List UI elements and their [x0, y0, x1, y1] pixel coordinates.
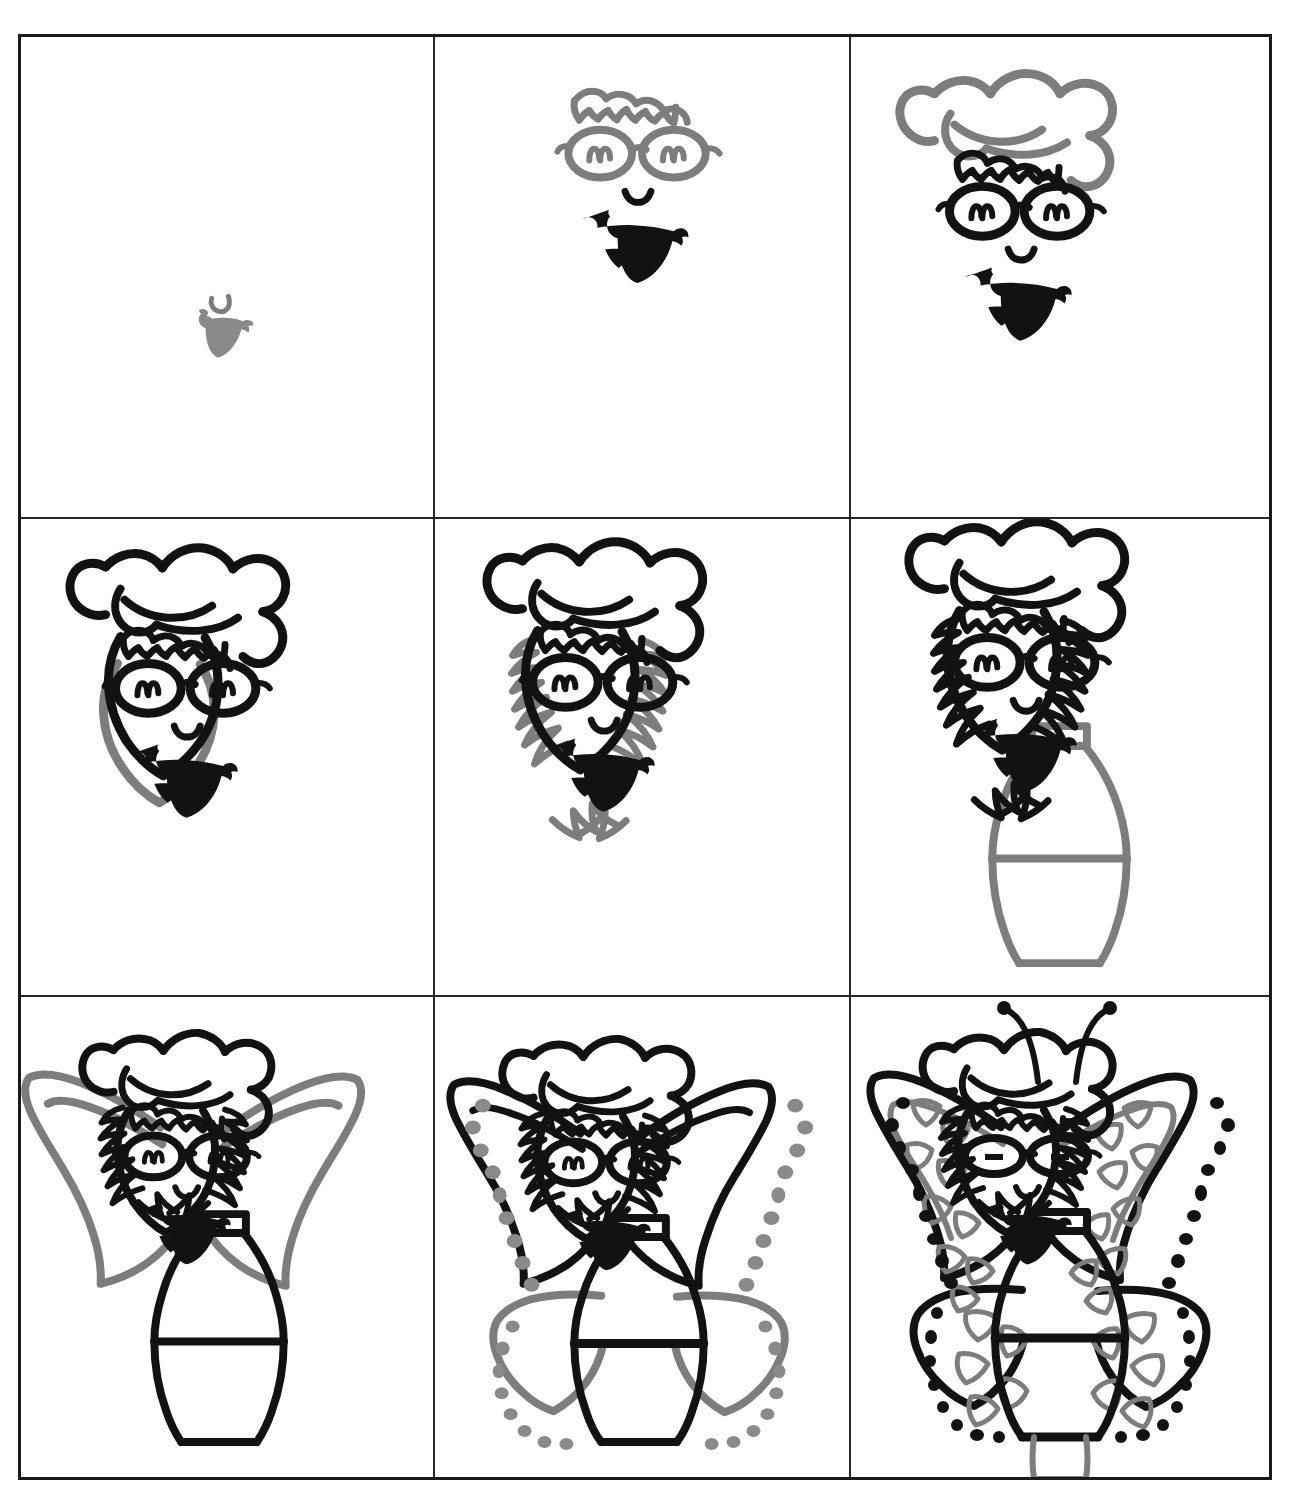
step-9-drawing: [851, 997, 1269, 1477]
eyebrows-sketch: [574, 91, 687, 123]
step-6-drawing: [851, 519, 1269, 995]
step-4-drawing: [21, 519, 433, 995]
nose-sketch: [625, 191, 651, 202]
tutorial-step-cell-5[interactable]: 5 Spiky curly hair sketched in pencil ar…: [435, 519, 851, 997]
lower-wings-sketch: [493, 1295, 786, 1450]
tutorial-step-cell-3[interactable]: 3 Face features inked black, cowboy hat …: [851, 37, 1269, 519]
glasses-sketch: [557, 130, 719, 178]
tutorial-step-cell-2[interactable]: 2 Zigzag eyebrows, round glasses with ey…: [435, 37, 851, 519]
step-2-drawing: [435, 37, 849, 517]
tutorial-step-cell-7[interactable]: 7 Body inked black, large upper wings sk…: [21, 997, 435, 1477]
tutorial-step-cell-8[interactable]: 8 Upper wings inked with spots, lower wi…: [435, 997, 851, 1477]
step-7-drawing: [21, 997, 433, 1477]
mouth-sketch: [582, 210, 688, 283]
step-8-drawing: [435, 997, 849, 1477]
tutorial-step-cell-1[interactable]: 1 Small pencil sketch of the nose and mo…: [21, 37, 435, 519]
step-1-drawing: [21, 37, 433, 517]
tutorial-step-cell-6[interactable]: 6 Hair inked black, pear shaped body and…: [851, 519, 1269, 997]
tutorial-grid: 1 Small pencil sketch of the nose and mo…: [21, 37, 1269, 1477]
tutorial-sheet: 1 Small pencil sketch of the nose and mo…: [18, 34, 1272, 1480]
step-5-drawing: [435, 519, 849, 995]
nose-and-mouth-sketch: [198, 296, 253, 357]
tutorial-step-cell-9[interactable]: 9 Finished butterfly with antennae, blac…: [851, 997, 1269, 1477]
tutorial-step-cell-4[interactable]: 4 Hat and face outline inked black, chin…: [21, 519, 435, 997]
step-3-drawing: [851, 37, 1269, 517]
